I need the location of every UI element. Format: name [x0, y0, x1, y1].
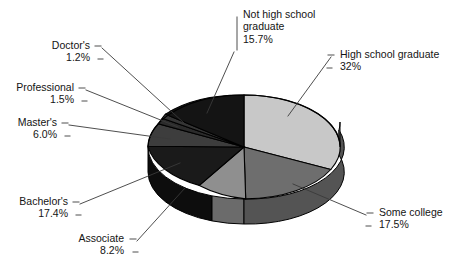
callout-label-not-high-school-graduate-line1: Not high school	[243, 8, 315, 20]
callout-label-not-high-school-graduate-line2: graduate	[243, 20, 315, 32]
callout-label-some-college: Some college	[379, 206, 443, 218]
callout-masters: Master's 6.0%	[0, 116, 57, 141]
callout-value-doctors: 1.2%	[12, 51, 90, 63]
callout-some-college: Some college 17.5%	[379, 206, 443, 231]
callout-label-doctors: Doctor's	[12, 39, 90, 51]
callout-value-professional: 1.5%	[0, 93, 74, 105]
callout-value-some-college: 17.5%	[379, 218, 443, 230]
leader-line-professional	[79, 88, 178, 127]
pie-side-associate	[212, 196, 244, 224]
callout-label-bachelors: Bachelor's	[0, 195, 68, 207]
pie-chart-figure: Not high school graduate 15.7% High scho…	[0, 0, 464, 267]
leader-line-associate	[130, 188, 185, 252]
callout-value-masters: 6.0%	[0, 128, 57, 140]
callout-high-school-graduate: High school graduate 32%	[340, 48, 439, 73]
callout-professional: Professional 1.5%	[0, 81, 74, 106]
callout-value-associate: 8.2%	[28, 244, 124, 256]
callout-label-associate: Associate	[28, 232, 124, 244]
callout-value-high-school-graduate: 32%	[340, 60, 439, 72]
callout-label-professional: Professional	[0, 81, 74, 93]
callout-doctors: Doctor's 1.2%	[12, 39, 90, 64]
callout-value-not-high-school-graduate: 15.7%	[243, 33, 315, 45]
callout-associate: Associate 8.2%	[28, 232, 124, 257]
leader-line-high-school-graduate	[288, 55, 334, 116]
callout-label-high-school-graduate: High school graduate	[340, 48, 439, 60]
callout-not-high-school-graduate: Not high school graduate 15.7%	[243, 8, 315, 45]
callout-bachelors: Bachelor's 17.4%	[0, 195, 68, 220]
callout-value-bachelors: 17.4%	[0, 207, 68, 219]
callout-label-masters: Master's	[0, 116, 57, 128]
